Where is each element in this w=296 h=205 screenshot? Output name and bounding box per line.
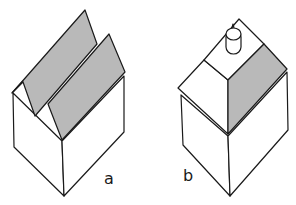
diagram-canvas	[0, 0, 296, 205]
panel-label-b: b	[183, 168, 193, 184]
panel-label-a: a	[104, 171, 114, 187]
house-b	[178, 19, 288, 196]
